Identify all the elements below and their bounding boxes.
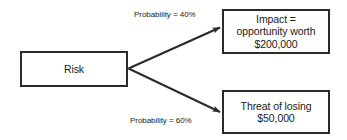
- impact-node-line-1: Impact =: [226, 13, 326, 26]
- impact-node-lines: Impact = opportunity worth $200,000: [224, 13, 328, 51]
- impact-node-line-3: $200,000: [226, 38, 326, 51]
- impact-node-line-2: opportunity worth: [226, 25, 326, 38]
- threat-node-line-1: Threat of losing: [226, 100, 326, 113]
- impact-node: Impact = opportunity worth $200,000: [222, 9, 330, 54]
- edge-risk-to-threat: [129, 69, 221, 113]
- threat-node-lines: Threat of losing $50,000: [224, 100, 328, 125]
- edge-risk-to-impact: [129, 28, 221, 69]
- risk-node-label: Risk: [24, 63, 124, 76]
- threat-node: Threat of losing $50,000: [222, 90, 330, 134]
- risk-node-lines: Risk: [22, 63, 126, 76]
- edge-label-probability-upper: Probability = 40%: [134, 10, 196, 20]
- threat-node-line-2: $50,000: [226, 112, 326, 125]
- risk-node: Risk: [20, 51, 128, 87]
- risk-diagram: Risk Impact = opportunity worth $200,000…: [0, 0, 347, 140]
- edge-label-probability-lower: Probability = 60%: [130, 116, 192, 126]
